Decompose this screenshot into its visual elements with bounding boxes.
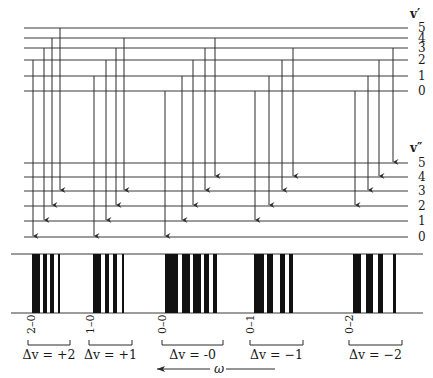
- lower-level-label: 1: [418, 214, 426, 228]
- spectral-line: [182, 254, 190, 313]
- lower-level-label: 0: [418, 230, 426, 244]
- upper-level-label: 5: [418, 21, 426, 35]
- delta-v-label: Δv = −1: [250, 347, 303, 362]
- spectral-line: [50, 254, 54, 313]
- lower-level-label: 3: [418, 184, 426, 198]
- band-bracket: [89, 340, 132, 345]
- band-bracket: [250, 340, 303, 345]
- band-bracket: [28, 340, 70, 345]
- band-labels: 2–0Δv = +21–0Δv = +10–0Δv = -00–1Δv = −1…: [23, 315, 402, 363]
- spectral-line: [366, 254, 373, 313]
- spectral-line: [204, 254, 209, 313]
- lower-level-label: 2: [418, 199, 426, 213]
- spectral-line: [254, 254, 264, 313]
- spectral-line: [280, 254, 285, 313]
- spectral-line: [353, 254, 361, 313]
- spectral-line: [105, 254, 109, 313]
- lower-level-label: 5: [418, 156, 426, 170]
- band-origin-label: 2–0: [25, 315, 38, 335]
- spectral-line: [122, 254, 124, 313]
- band-bracket: [349, 340, 402, 345]
- spectral-line: [43, 254, 47, 313]
- band-bracket: [162, 340, 223, 345]
- spectral-line: [32, 254, 40, 313]
- upper-level-label: 2: [418, 53, 426, 67]
- upper-level-label: 0: [418, 84, 426, 98]
- spectral-line: [165, 254, 178, 313]
- band-origin-label: 0–2: [343, 315, 356, 335]
- delta-v-label: Δv = +2: [23, 347, 76, 362]
- lower-level-label: 4: [418, 170, 426, 184]
- delta-v-label: Δv = -0: [169, 347, 216, 362]
- spectral-line: [193, 254, 201, 313]
- spectral-line: [267, 254, 273, 313]
- frequency-axis: ω: [157, 361, 275, 376]
- band-origin-label: 0–1: [244, 315, 257, 335]
- spectral-line: [393, 254, 396, 313]
- lower-state-levels: 012345: [24, 156, 426, 244]
- lower-state-label: v″: [409, 141, 423, 155]
- spectral-line: [93, 254, 101, 313]
- upper-level-label: 1: [418, 69, 426, 83]
- upper-state-label: v′: [409, 7, 420, 21]
- omega-label: ω: [214, 361, 224, 376]
- spectral-line: [213, 254, 217, 313]
- delta-v-label: Δv = +1: [84, 347, 137, 362]
- spectral-line: [113, 254, 117, 313]
- spectral-line: [289, 254, 293, 313]
- delta-v-label: Δv = −2: [349, 347, 402, 362]
- spectral-line: [378, 254, 383, 313]
- vibronic-transition-diagram: 012345 v′ 012345 v″ 2–0Δv = +21–0Δv = +1…: [0, 0, 433, 378]
- band-origin-label: 0–0: [156, 315, 169, 335]
- band-origin-label: 1–0: [84, 315, 97, 335]
- transition-arrows: [33, 28, 393, 236]
- spectral-line: [58, 254, 60, 313]
- upper-state-levels: 012345: [24, 21, 426, 98]
- band-spectrum: [11, 254, 423, 313]
